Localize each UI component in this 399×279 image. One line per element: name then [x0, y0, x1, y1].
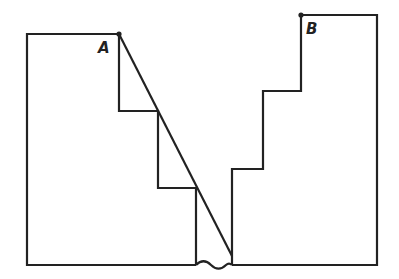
label-b: B — [306, 20, 317, 38]
diagonal-line-a — [119, 34, 232, 256]
label-a: A — [97, 39, 110, 57]
left-stepped-wall — [27, 34, 196, 265]
point-b-marker — [298, 12, 303, 17]
gap-wavy-break — [196, 261, 232, 269]
right-stepped-wall — [232, 15, 377, 265]
point-a-marker — [116, 31, 121, 36]
stepped-walls-diagram: A B — [0, 0, 399, 279]
